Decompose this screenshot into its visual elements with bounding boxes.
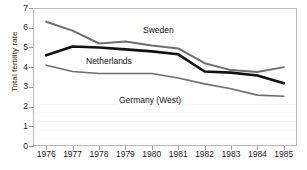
y-tick-label-6: 6: [16, 23, 28, 32]
y-tick-label-4: 4: [16, 63, 28, 72]
x-tick-label-1985: 1985: [267, 150, 301, 159]
y-tick-label-1: 1: [16, 122, 28, 131]
series-label-germany-west: Germany (West): [118, 96, 182, 105]
series-line-netherlands: [46, 46, 284, 83]
y-tick-label-3: 3: [16, 82, 28, 91]
series-label-netherlands: Netherlands: [85, 57, 133, 66]
y-tick-label-0: 0: [16, 142, 28, 151]
fertility-rate-line-chart: Total fertility rate 01234567 Sweden Net…: [0, 0, 307, 170]
y-axis-tick-labels: 01234567: [14, 0, 28, 170]
y-tick-label-5: 5: [16, 43, 28, 52]
series-line-germany-west: [46, 65, 284, 96]
y-tick-label-2: 2: [16, 102, 28, 111]
series-label-sweden: Sweden: [142, 26, 175, 35]
y-tick-mark-0: [29, 146, 34, 147]
y-tick-label-7: 7: [16, 4, 28, 13]
x-axis-tick-labels: 1976197719781979198019811982198319841985: [0, 150, 307, 166]
